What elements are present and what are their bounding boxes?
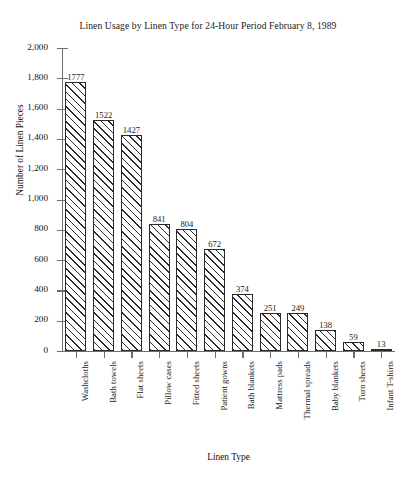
x-tick — [104, 351, 105, 358]
bar-value-label: 59 — [349, 332, 358, 342]
x-axis-title: Linen Type — [62, 452, 395, 462]
x-category-label: Bath blankets — [246, 361, 256, 409]
x-tick — [215, 351, 216, 358]
bar-value-label: 251 — [264, 303, 277, 313]
bar: 13 — [371, 349, 392, 351]
bar: 672 — [204, 249, 225, 351]
x-tick — [76, 351, 77, 358]
y-tick-label: 1,600 — [2, 102, 48, 112]
bar-value-label: 374 — [236, 284, 249, 294]
y-tick-label: 200 — [2, 314, 48, 324]
x-category-label: Infant T-shirts — [385, 361, 395, 411]
y-tick-label: 800 — [2, 223, 48, 233]
x-category-label: Baby blankets — [330, 361, 340, 411]
y-tick-label: 2,000 — [2, 42, 48, 52]
bar: 59 — [343, 342, 364, 351]
bar-value-label: 138 — [319, 320, 332, 330]
x-tick — [270, 351, 271, 358]
x-category-label: Pillow cases — [163, 361, 173, 405]
x-category-label: Flat sheets — [135, 361, 145, 398]
x-axis-line — [62, 351, 395, 352]
bar-value-label: 249 — [291, 303, 304, 313]
x-category-label: Turn sheets — [357, 361, 367, 402]
y-tick-label: 1,000 — [2, 193, 48, 203]
y-tick: 0 — [57, 351, 68, 352]
x-category-label: Thermal spreads — [302, 361, 312, 419]
x-tick — [131, 351, 132, 358]
y-tick-label: 0 — [2, 345, 48, 355]
x-tick — [187, 351, 188, 358]
bar-value-label: 841 — [153, 214, 166, 224]
x-category-label: Mattress pads — [274, 361, 284, 410]
y-tick-label: 1,800 — [2, 72, 48, 82]
bar: 251 — [260, 313, 281, 351]
bar-value-label: 1427 — [123, 125, 140, 135]
y-tick-label: 400 — [2, 284, 48, 294]
bar-value-label: 672 — [208, 239, 221, 249]
y-tick-label: 1,400 — [2, 132, 48, 142]
x-category-label: Bath towels — [108, 361, 118, 403]
x-category-label: Patient gowns — [219, 361, 229, 411]
bar-value-label: 1777 — [67, 72, 84, 82]
x-tick — [326, 351, 327, 358]
bar: 1427 — [121, 135, 142, 351]
bar: 804 — [176, 229, 197, 351]
x-tick — [242, 351, 243, 358]
y-tick: 2,000 — [57, 48, 68, 49]
x-category-label: Fitted sheets — [191, 361, 201, 405]
bar-value-label: 804 — [180, 219, 193, 229]
x-tick — [353, 351, 354, 358]
bar: 374 — [232, 294, 253, 351]
y-tick-label: 1,200 — [2, 163, 48, 173]
bar-value-label: 1522 — [95, 110, 112, 120]
x-tick — [159, 351, 160, 358]
bar: 1522 — [93, 120, 114, 351]
y-tick-label: 600 — [2, 254, 48, 264]
page-title: Linen Usage by Linen Type for 24-Hour Pe… — [0, 20, 416, 31]
x-category-label: Washcloths — [80, 361, 90, 401]
bar: 841 — [149, 224, 170, 351]
chart-page: Linen Usage by Linen Type for 24-Hour Pe… — [0, 0, 416, 485]
bar: 138 — [315, 330, 336, 351]
bar-value-label: 13 — [377, 339, 386, 349]
x-tick — [298, 351, 299, 358]
x-tick — [381, 351, 382, 358]
bar: 249 — [287, 313, 308, 351]
bar: 1777 — [65, 82, 86, 351]
plot-area: 02004006008001,0001,2001,4001,6001,8002,… — [62, 48, 395, 351]
